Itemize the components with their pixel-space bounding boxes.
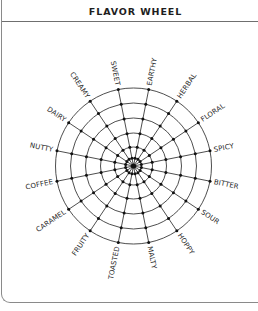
wheel-node [125,160,128,163]
wheel-node [150,192,153,195]
wheel-node [197,121,200,124]
wheel-node [141,117,144,120]
wheel-node [128,158,131,161]
wheel-node [134,157,137,160]
wheel-node [117,88,120,91]
wheel-node [128,146,131,149]
wheel-node [92,191,95,194]
wheel-node [89,229,92,232]
flavor-label-nutty: NUTTY [29,141,54,154]
wheel-node [121,180,124,183]
wheel-node [159,146,162,149]
wheel-node [164,171,167,174]
wheel-node [143,149,146,152]
wheel-node [138,132,141,135]
wheel-node [92,138,95,141]
wheel-node [121,149,124,152]
wheel-node [159,183,162,186]
wheel-node [130,172,133,175]
wheel-node [123,212,126,215]
wheel-node [175,100,178,103]
wheel-node [120,103,123,106]
wheel-node [128,171,131,174]
wheel-node [147,241,150,244]
wheel-node [125,169,128,172]
flavor-label-coffee: COFFEE [25,178,54,191]
wheel-node [175,229,178,232]
wheel-node [144,103,147,106]
flavor-label-sour: SOUR [199,208,220,226]
wheel-node [97,112,100,115]
wheel-node [167,112,170,115]
wheel-node [114,137,117,140]
wheel-node [139,169,142,172]
wheel-node [55,149,58,152]
wheel-node [67,208,70,211]
wheel-node [85,155,88,158]
wheel-node [167,217,170,220]
wheel-node [116,154,119,157]
wheel-node [172,138,175,141]
wheel-node [123,117,126,120]
wheel-node [126,132,129,135]
wheel-node [67,121,70,124]
wheel-node [184,200,187,203]
flavor-label-herbal: HERBAL [176,72,199,100]
wheel-node [89,100,92,103]
wheel-node [159,204,162,207]
flavor-label-floral: FLORAL [199,102,226,124]
wheel-node [148,175,151,178]
flavor-label-fruity: FRUITY [71,231,92,257]
wheel-node [141,212,144,215]
wheel-node [151,161,154,164]
wheel-node [124,163,127,166]
wheel-node [144,226,147,229]
wheel-node [159,125,162,128]
wheel-node [209,149,212,152]
flavor-label-malty: MALTY [146,246,158,271]
wheel-node [124,166,127,169]
wheel-node [105,146,108,149]
wheel-node [97,217,100,220]
wheel-node [179,155,182,158]
flavor-label-creamy: CREAMY [68,71,92,101]
wheel-node [128,183,131,186]
flavor-label-toasted: TOASTED [107,246,122,282]
wheel-node [105,125,108,128]
wheel-node [70,152,73,155]
wheel-node [136,158,139,161]
wheel-node [138,197,141,200]
wheel-node [80,129,83,132]
wheel-node [143,180,146,183]
wheel-node [172,191,175,194]
wheel-node [113,161,116,164]
wheel-node [147,88,150,91]
wheel-node [140,163,143,166]
wheel-node [130,157,133,160]
wheel-node [136,146,139,149]
wheel-node [139,160,142,163]
wheel-node [105,204,108,207]
flavor-label-hoppy: HOPPY [176,232,196,257]
wheel-node [209,180,212,183]
wheel-node [100,158,103,161]
wheel-node [85,174,88,177]
flavor-label-sweet: SWEET [109,60,122,87]
flavor-label-earthy: EARTHY [146,57,159,87]
wheel-node [105,183,108,186]
wheel-node [194,177,197,180]
wheel-node [179,174,182,177]
wheel-node [117,241,120,244]
wheel-node [194,152,197,155]
wheel-node [136,171,139,174]
wheel-node [100,171,103,174]
wheel-node [80,200,83,203]
flavor-label-caramel: CARAMEL [35,208,68,234]
wheel-node [184,129,187,132]
wheel-node [70,177,73,180]
wheel-node [164,158,167,161]
flavor-label-bitter: BITTER [213,178,239,191]
wheel-node [140,166,143,169]
wheel-center-hub [131,163,136,168]
wheel-node [148,154,151,157]
